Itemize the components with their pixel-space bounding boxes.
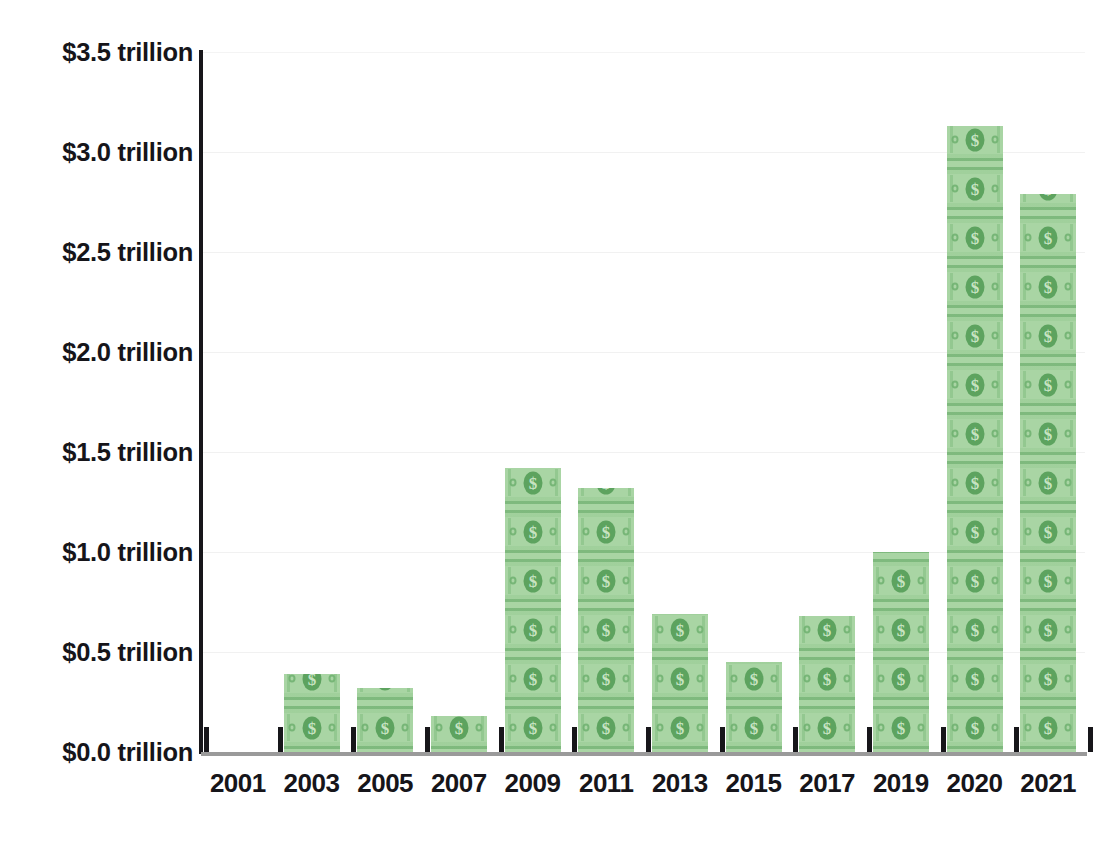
bill-emblem: $ (878, 569, 925, 592)
bill-emblem: $ (952, 716, 999, 739)
bill-emblem: $ (1025, 373, 1072, 396)
bill-dot-left (878, 675, 885, 683)
x-axis-tick-label: 2019 (873, 768, 929, 799)
dollar-sign-icon: $ (671, 716, 690, 739)
bill-dot-left (583, 577, 590, 585)
dollar-bill-icon: $ (505, 703, 561, 752)
bill-emblem: $ (952, 324, 999, 347)
bill-dot-left (952, 430, 959, 438)
bill-dot-left (952, 479, 959, 487)
dollar-sign-icon: $ (1039, 520, 1058, 543)
dollar-bill-icon: $ (505, 605, 561, 654)
bill-dot-right (992, 234, 999, 242)
bill-emblem: $ (878, 716, 925, 739)
dollar-sign-icon: $ (966, 618, 985, 641)
bill-emblem: $ (1025, 275, 1072, 298)
bill-dot-left (952, 577, 959, 585)
dollar-sign-icon: $ (1039, 471, 1058, 494)
dollar-bill-icon: $ (873, 556, 929, 605)
x-axis-tick-label: 2017 (799, 768, 855, 799)
bill-dot-left (289, 724, 296, 732)
x-axis-tick (204, 727, 209, 752)
bill-dot-left (436, 724, 443, 732)
bill-dot-right (550, 724, 557, 732)
bill-dot-right (1065, 381, 1072, 389)
y-axis-tick-label: $2.0 trillion (23, 338, 193, 367)
bill-dot-right (1065, 528, 1072, 536)
bill-emblem: $ (952, 226, 999, 249)
dollar-bill-icon: $ (799, 616, 855, 654)
x-axis-tick (572, 727, 577, 752)
bill-dot-right (1065, 430, 1072, 438)
dollar-bill-icon: $ (1020, 654, 1076, 703)
y-axis-tick-label: $3.5 trillion (23, 38, 193, 67)
x-axis-tick (425, 727, 430, 752)
dollar-bill-icon: $ (284, 674, 340, 703)
dollar-sign-icon: $ (966, 128, 985, 151)
bill-dot-right (918, 724, 925, 732)
dollar-bill-icon: $ (947, 507, 1003, 556)
bill-emblem: $ (510, 471, 557, 494)
bill-dot-right (918, 675, 925, 683)
dollar-bill-icon: $ (1020, 409, 1076, 458)
dollar-bill-icon: $ (947, 262, 1003, 311)
bar-chart: $0.0 trillion$0.5 trillion$1.0 trillion$… (0, 0, 1107, 841)
x-axis-tick-label: 2020 (947, 768, 1003, 799)
y-axis-tick-label: $0.5 trillion (23, 638, 193, 667)
x-axis-tick (278, 727, 283, 752)
bill-dot-right (550, 626, 557, 634)
dollar-bill-icon: $ (947, 458, 1003, 507)
dollar-bill-icon: $ (578, 507, 634, 556)
bill-dot-right (992, 528, 999, 536)
x-axis-tick-label: 2003 (284, 768, 340, 799)
dollar-bill-icon: $ (799, 703, 855, 752)
bill-emblem: $ (952, 128, 999, 151)
dollar-sign-icon: $ (818, 667, 837, 690)
bill-dot-left (952, 234, 959, 242)
bill-emblem: $ (436, 716, 483, 739)
bill-emblem: $ (952, 422, 999, 445)
dollar-bill-stack-icon: $$$$$$$ (578, 488, 634, 752)
bill-emblem: $ (289, 716, 336, 739)
bill-dot-right (992, 185, 999, 193)
bill-dot-right (623, 626, 630, 634)
bill-dot-left (1025, 528, 1032, 536)
bill-dot-left (952, 626, 959, 634)
dollar-sign-icon: $ (1039, 618, 1058, 641)
bill-dot-right (697, 626, 704, 634)
dollar-bill-icon: $ (947, 164, 1003, 213)
bill-emblem: $ (1025, 324, 1072, 347)
x-axis-tick (941, 727, 946, 752)
bill-dot-left (1025, 381, 1032, 389)
y-axis-tick-label: $3.0 trillion (23, 138, 193, 167)
bar: $$$$ (799, 616, 855, 752)
bill-dot-right (992, 577, 999, 585)
dollar-bill-icon: $ (726, 662, 782, 703)
dollar-bill-stack-icon: $$$ (284, 674, 340, 752)
dollar-bill-stack-icon: $$$$ (799, 616, 855, 752)
dollar-sign-icon: $ (1039, 569, 1058, 592)
dollar-bill-icon: $ (578, 488, 634, 507)
bill-dot-left (1025, 430, 1032, 438)
bill-dot-left (1025, 626, 1032, 634)
dollar-sign-icon: $ (524, 667, 543, 690)
bill-emblem: $ (952, 373, 999, 396)
dollar-sign-icon: $ (745, 667, 764, 690)
bill-emblem: $ (1025, 226, 1072, 249)
bill-emblem: $ (362, 716, 409, 739)
dollar-bill-icon: $ (947, 409, 1003, 458)
dollar-sign-icon: $ (745, 716, 764, 739)
dollar-sign-icon: $ (524, 520, 543, 543)
bill-dot-left (952, 283, 959, 291)
bill-emblem: $ (952, 667, 999, 690)
dollar-bill-icon: $ (505, 556, 561, 605)
bill-emblem: $ (583, 618, 630, 641)
bill-dot-left (804, 626, 811, 634)
dollar-sign-icon: $ (376, 716, 395, 739)
dollar-sign-icon: $ (524, 569, 543, 592)
dollar-bill-stack-icon: $$$$ (652, 614, 708, 752)
bill-emblem: $ (731, 667, 778, 690)
bill-dot-right (1065, 724, 1072, 732)
dollar-sign-icon: $ (818, 716, 837, 739)
bill-dot-right (623, 675, 630, 683)
